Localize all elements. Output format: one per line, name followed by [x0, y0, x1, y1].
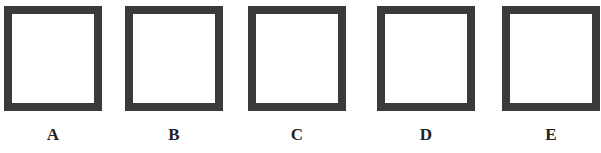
label-d: D: [377, 125, 475, 145]
square-a: [4, 6, 102, 111]
label-e: E: [502, 125, 600, 145]
square-b: [125, 6, 223, 111]
square-c: [248, 6, 346, 111]
label-b: B: [125, 125, 223, 145]
label-c: C: [248, 125, 346, 145]
label-a: A: [4, 125, 102, 145]
square-e: [502, 6, 600, 111]
square-d: [377, 6, 475, 111]
